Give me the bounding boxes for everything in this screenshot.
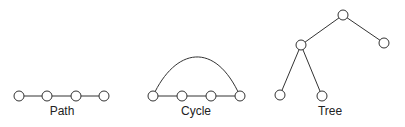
tree-label: Tree xyxy=(318,104,343,118)
edge xyxy=(301,15,343,45)
node xyxy=(14,91,24,101)
graph-types-diagram: Path Cycle Tree xyxy=(0,0,405,127)
path-label: Path xyxy=(50,104,75,118)
node xyxy=(338,10,348,20)
edge xyxy=(343,15,384,43)
node xyxy=(177,91,187,101)
node xyxy=(148,91,158,101)
node xyxy=(296,40,306,50)
node xyxy=(206,91,216,101)
tree-graph xyxy=(275,10,389,101)
cycle-closing-edge xyxy=(153,57,240,96)
edge xyxy=(280,45,301,95)
edge xyxy=(301,45,322,96)
cycle-label: Cycle xyxy=(181,104,211,118)
cycle-graph xyxy=(148,57,245,101)
node xyxy=(42,91,52,101)
node xyxy=(71,91,81,101)
node xyxy=(235,91,245,101)
node xyxy=(317,91,327,101)
node xyxy=(99,91,109,101)
node xyxy=(379,38,389,48)
path-graph xyxy=(14,91,109,101)
node xyxy=(275,90,285,100)
